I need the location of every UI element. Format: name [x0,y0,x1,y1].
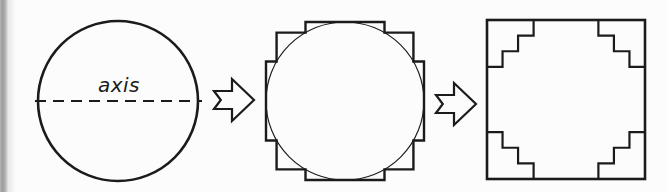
figure-canvas: axis [0,0,668,192]
square-outline [487,20,645,179]
square-panel [0,0,668,192]
corner-staircase-lines [487,20,645,179]
